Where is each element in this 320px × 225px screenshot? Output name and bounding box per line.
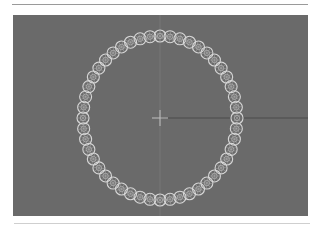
bead xyxy=(87,153,99,165)
bead xyxy=(87,71,99,83)
bead xyxy=(208,54,220,66)
bead xyxy=(193,41,205,53)
crosshair-icon xyxy=(152,110,168,126)
bead xyxy=(100,170,112,182)
bead xyxy=(116,41,128,53)
3d-viewport-canvas[interactable] xyxy=(13,15,308,216)
bead xyxy=(193,183,205,195)
bead xyxy=(221,71,233,83)
top-divider xyxy=(12,4,308,5)
bead xyxy=(201,47,213,59)
viewport-scene xyxy=(13,15,308,216)
bottom-divider xyxy=(14,223,310,224)
bead xyxy=(93,62,105,74)
bead xyxy=(116,183,128,195)
bead xyxy=(201,177,213,189)
bead xyxy=(107,177,119,189)
bead xyxy=(93,162,105,174)
bead xyxy=(215,162,227,174)
bead xyxy=(215,62,227,74)
bead xyxy=(83,81,95,93)
bead xyxy=(225,143,237,155)
bead xyxy=(228,91,240,103)
bead xyxy=(107,47,119,59)
bead xyxy=(80,133,92,145)
bead xyxy=(221,153,233,165)
